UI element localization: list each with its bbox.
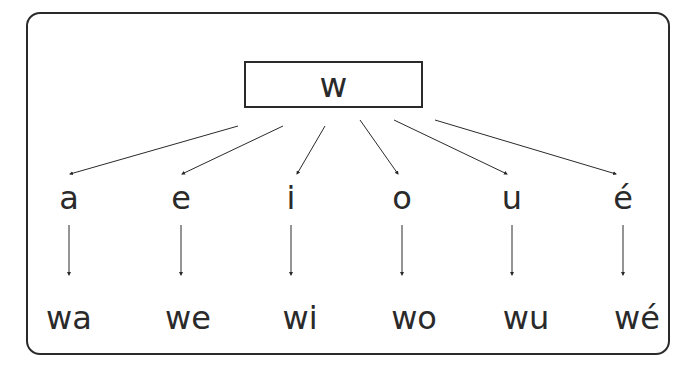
syllable-wo: wo [374,302,454,334]
syllable-we: we [148,302,228,334]
vowel-e: e [141,182,221,214]
arrow-w-to-i [297,126,325,174]
arrow-w-to-o [360,120,398,174]
vowel-o: o [362,182,442,214]
arrow-w-to-u [394,120,507,174]
arrow-w-to-e-acute [435,120,616,174]
vowel-u: u [472,182,552,214]
syllable-we-acute: wé [597,302,677,334]
syllable-wi: wi [260,302,340,334]
arrow-w-to-a [70,126,238,174]
syllable-wu: wu [486,302,566,334]
vowel-i: i [251,182,331,214]
syllable-wa: wa [29,302,109,334]
vowel-a: a [29,182,109,214]
arrow-w-to-e [182,126,283,174]
vowel-e-acute: é [583,182,663,214]
